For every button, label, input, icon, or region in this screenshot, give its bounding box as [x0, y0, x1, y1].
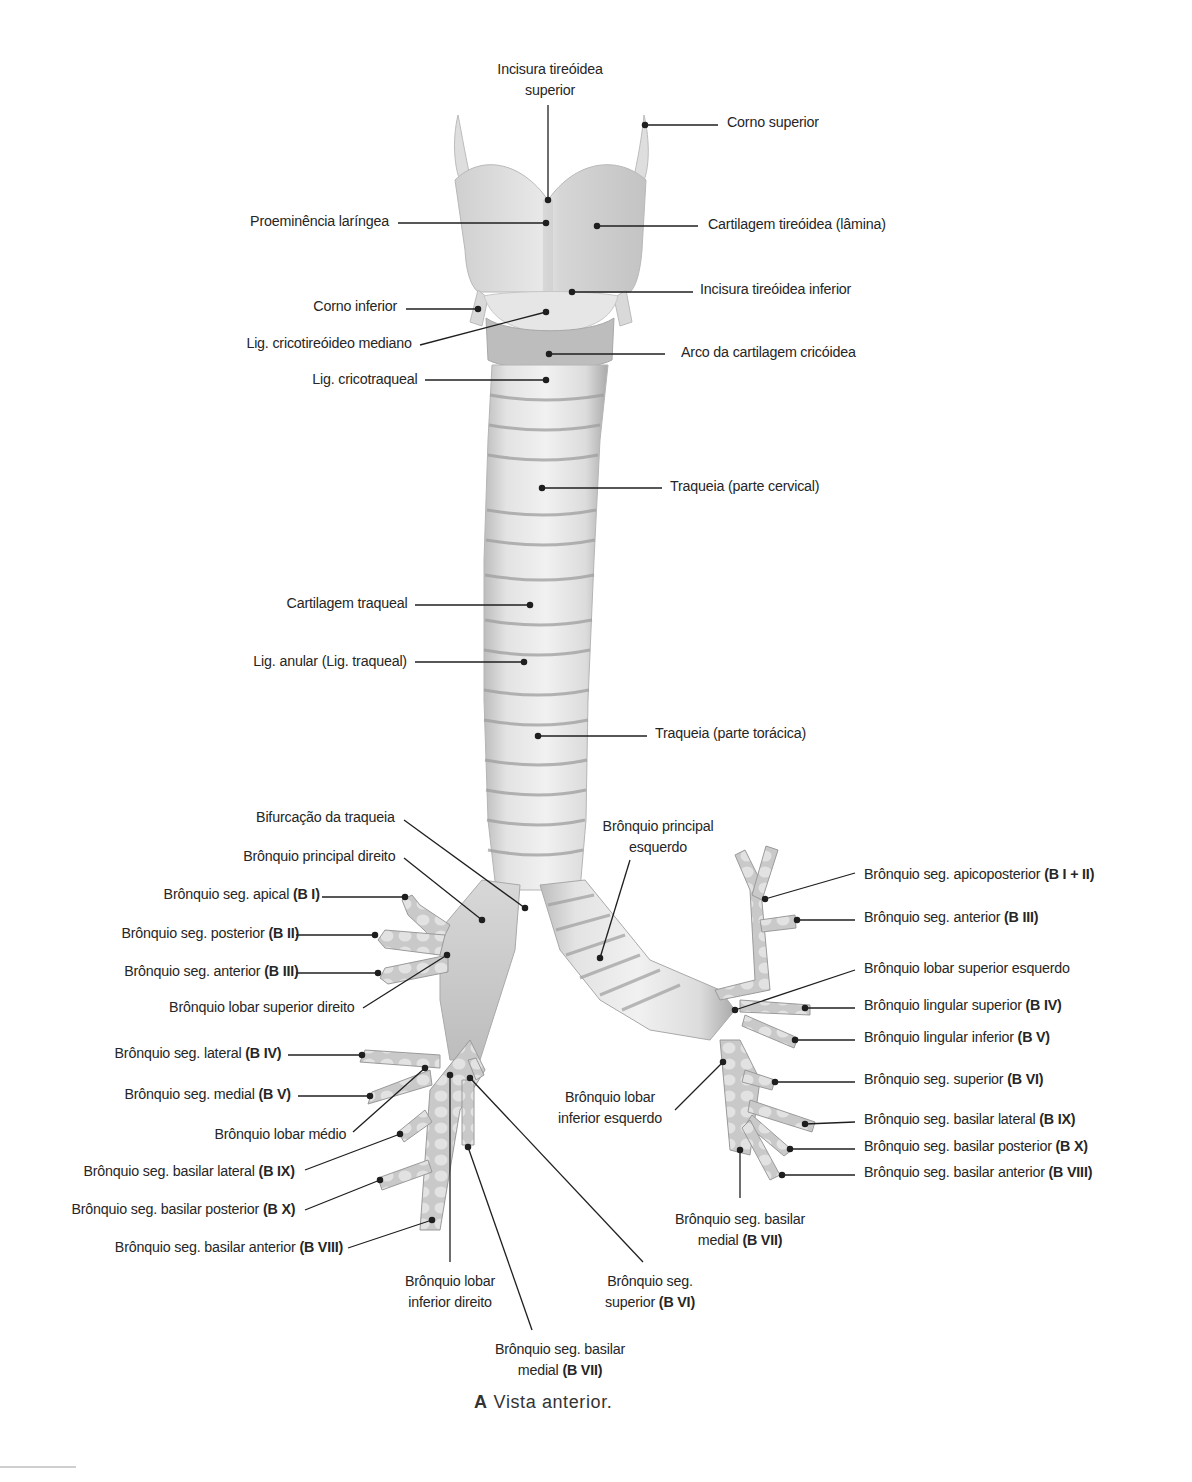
label-left-bronquio-seg-basilar-posterior: Brônquio seg. basilar posterior (B X) [864, 1135, 1088, 1156]
label-traqueia-toracica: Traqueia (parte torácica) [655, 722, 806, 743]
label-traqueia-cervical: Traqueia (parte cervical) [670, 475, 819, 496]
label-right-bronquio-seg-apical: Brônquio seg. apical (B I) [164, 883, 320, 904]
label-left-bronquio-lingular-inferior: Brônquio lingular inferior (B V) [864, 1026, 1050, 1047]
label-left-bronquio-seg-basilar-lateral: Brônquio seg. basilar lateral (B IX) [864, 1108, 1075, 1129]
label-right-bronquio-seg-medial: Brônquio seg. medial (B V) [125, 1083, 291, 1104]
label-bifurcacao-traqueia: Bifurcação da traqueia [256, 806, 395, 827]
label-left-bronquio-seg-anterior: Brônquio seg. anterior (B III) [864, 906, 1038, 927]
label-lig-anular: Lig. anular (Lig. traqueal) [253, 650, 407, 671]
label-right-bronquio-seg-superior: Brônquio seg. superior (B VI) [581, 1270, 719, 1312]
label-right-bronquio-seg-basilar-medial: Brônquio seg. basilar medial (B VII) [482, 1338, 638, 1380]
label-left-bronquio-lingular-superior: Brônquio lingular superior (B IV) [864, 994, 1062, 1015]
figure-caption: AVista anterior. [474, 1392, 612, 1413]
label-bronquio-principal-direito: Brônquio principal direito [243, 845, 395, 866]
caption-text: Vista anterior. [494, 1392, 613, 1412]
label-right-bronquio-seg-anterior: Brônquio seg. anterior (B III) [125, 960, 299, 981]
label-cartilagem-tireoidea: Cartilagem tireóidea (lâmina) [708, 213, 886, 234]
label-left-bronquio-seg-superior: Brônquio seg. superior (B VI) [864, 1068, 1043, 1089]
footer-rule [0, 1466, 76, 1468]
caption-letter: A [474, 1392, 488, 1412]
label-left-bronquio-seg-apicoposterior: Brônquio seg. apicoposterior (B I + II) [864, 863, 1094, 884]
label-incisura-tireoidea-inferior: Incisura tireóidea inferior [700, 278, 851, 299]
label-lig-cricotireoideo-mediano: Lig. cricotireóideo mediano [247, 332, 412, 353]
thyroid-cartilage [455, 115, 649, 369]
label-left-bronquio-lobar-inferior: Brônquio lobar inferior esquerdo [546, 1086, 675, 1128]
label-incisura-tireoidea-superior: Incisura tireóidea superior [476, 58, 623, 100]
label-right-bronquio-seg-lateral: Brônquio seg. lateral (B IV) [114, 1042, 281, 1063]
label-right-bronquio-lobar-superior: Brônquio lobar superior direito [169, 996, 354, 1017]
label-left-bronquio-lobar-superior: Brônquio lobar superior esquerdo [864, 957, 1070, 978]
label-bronquio-principal-esquerdo: Brônquio principal esquerdo [584, 815, 731, 857]
label-right-bronquio-lobar-inferior: Brônquio lobar inferior direito [386, 1270, 515, 1312]
label-right-bronquio-seg-posterior: Brônquio seg. posterior (B II) [121, 922, 299, 943]
label-corno-inferior: Corno inferior [313, 295, 397, 316]
right-bronchial-tree [360, 880, 520, 1230]
label-right-bronquio-seg-basilar-posterior: Brônquio seg. basilar posterior (B X) [71, 1198, 295, 1219]
label-left-bronquio-seg-basilar-medial: Brônquio seg. basilar medial (B VII) [662, 1208, 818, 1250]
label-right-bronquio-lobar-medio: Brônquio lobar médio [214, 1123, 346, 1144]
label-cartilagem-traqueal: Cartilagem traqueal [286, 592, 407, 613]
label-lig-cricotraqueal: Lig. cricotraqueal [312, 368, 417, 389]
label-proeminencia-laringea: Proeminência laríngea [250, 210, 389, 231]
trachea [484, 365, 608, 890]
label-right-bronquio-seg-basilar-lateral: Brônquio seg. basilar lateral (B IX) [84, 1160, 295, 1181]
label-arco-cartilagem-cricoidea: Arco da cartilagem cricóidea [681, 341, 856, 362]
larynx-trachea-bronchi-illustration [0, 0, 1192, 1482]
label-left-bronquio-seg-basilar-anterior: Brônquio seg. basilar anterior (B VIII) [864, 1161, 1092, 1182]
label-corno-superior: Corno superior [727, 111, 819, 132]
label-right-bronquio-seg-basilar-anterior: Brônquio seg. basilar anterior (B VIII) [115, 1236, 343, 1257]
